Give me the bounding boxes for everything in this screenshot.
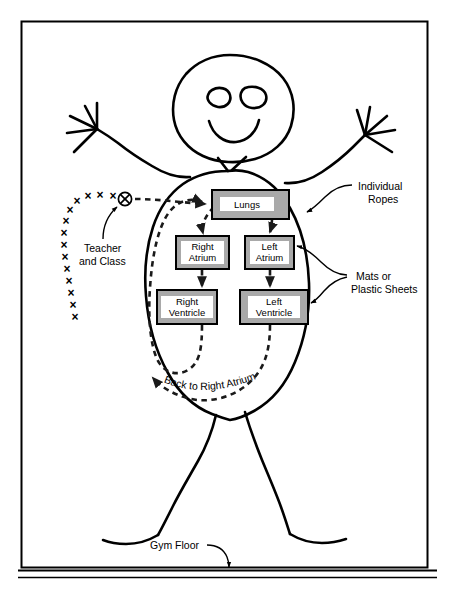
queue-x-mark: × — [96, 188, 103, 202]
organ-box-right-atrium-label-1: Right — [191, 241, 214, 252]
organ-box-right-atrium[interactable]: Right Atrium — [176, 236, 229, 269]
organ-box-left-ventricle[interactable]: Left Ventricle — [240, 290, 308, 324]
organ-box-lungs[interactable]: Lungs — [212, 190, 289, 219]
organ-box-lungs-label: Lungs — [234, 199, 260, 210]
queue-x-mark: × — [73, 194, 80, 208]
callout-individual-ropes-line2: Ropes — [368, 193, 398, 205]
organ-box-left-ventricle-label-1: Left — [266, 296, 282, 307]
gym-floor-label: Gym Floor — [150, 539, 200, 551]
queue-x-mark: × — [84, 189, 91, 203]
organ-box-right-ventricle-label-2: Ventricle — [169, 307, 205, 318]
callout-teacher-and-class-line1: Teacher — [84, 242, 122, 254]
queue-x-mark: × — [109, 189, 116, 203]
diagram-canvas: Back to Right Atrium Lungs Right Atrium … — [0, 0, 450, 590]
circulation-gym-diagram: Back to Right Atrium Lungs Right Atrium … — [0, 0, 450, 590]
queue-x-mark: × — [71, 310, 78, 324]
organ-box-left-ventricle-label-2: Ventricle — [256, 307, 292, 318]
organ-box-left-atrium[interactable]: Left Atrium — [245, 236, 294, 269]
organ-box-right-ventricle[interactable]: Right Ventricle — [157, 290, 217, 324]
organ-box-right-ventricle-label-1: Right — [176, 296, 199, 307]
gym-floor-rule — [18, 571, 437, 578]
callout-individual-ropes-line1: Individual — [358, 180, 402, 192]
callout-teacher-and-class-line2: and Class — [79, 255, 126, 267]
organ-box-left-atrium-label-2: Atrium — [256, 252, 284, 263]
organ-box-left-atrium-label-1: Left — [262, 241, 278, 252]
callout-mats-or-sheets-line1: Mats or — [356, 270, 392, 282]
organ-box-right-atrium-label-2: Atrium — [189, 252, 217, 263]
callout-mats-or-sheets-line2: Plastic Sheets — [351, 283, 418, 295]
